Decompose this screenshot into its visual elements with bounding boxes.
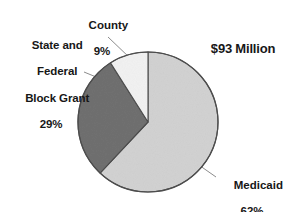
slice-label-medicaid-name: Medicaid xyxy=(234,179,283,191)
slice-percent-block-grant: 29% xyxy=(2,118,100,131)
slice-percent-county: 9% xyxy=(68,45,136,58)
slice-label-medicaid: Medicaid 62% xyxy=(214,166,290,212)
total-amount-label: $93 Million xyxy=(196,42,290,57)
pie-chart-figure: State and Federal Block Grant 29% County… xyxy=(0,0,296,212)
slice-label-block-grant-line3: Block Grant xyxy=(25,92,89,104)
slice-label-county: County 9% xyxy=(68,6,136,85)
slice-label-county-name: County xyxy=(89,19,129,31)
slice-percent-medicaid: 62% xyxy=(214,205,290,212)
